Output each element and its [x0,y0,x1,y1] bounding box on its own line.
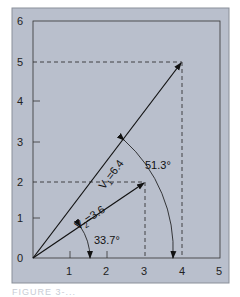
chart-panel [12,8,229,283]
angle-label-v1: 51.3° [145,159,171,171]
figure-caption: FIGURE 3-... [12,287,76,297]
svg-text:4: 4 [179,265,185,277]
svg-text:2: 2 [103,265,109,277]
svg-text:4: 4 [17,95,23,107]
svg-text:2: 2 [17,176,23,188]
svg-text:3: 3 [17,136,23,148]
svg-text:0: 0 [17,252,23,264]
svg-text:1: 1 [66,265,72,277]
svg-text:5: 5 [216,265,222,277]
vector-chart: 6 5 4 3 2 1 0 1 2 3 4 5 V1=6.4 V2=3.6 51… [0,0,240,297]
svg-text:5: 5 [17,56,23,68]
svg-text:1: 1 [17,212,23,224]
svg-text:6: 6 [17,15,23,27]
svg-text:3: 3 [141,265,147,277]
angle-label-v2: 33.7° [94,234,120,246]
